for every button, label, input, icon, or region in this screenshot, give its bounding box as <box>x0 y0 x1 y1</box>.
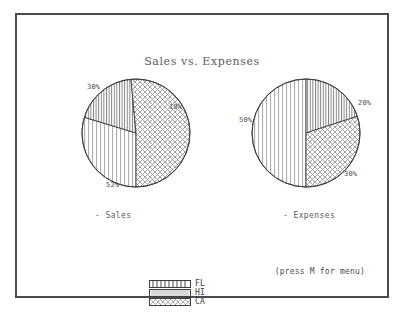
legend-label-hi: HI <box>195 288 205 297</box>
status-hint: (press M for menu) <box>275 267 365 276</box>
application-screen: Sales vs. Expenses <box>0 0 407 321</box>
legend: FL <box>149 279 205 306</box>
legend-swatch-hi <box>149 289 191 297</box>
pie-label-expenses-hi: 50% <box>239 116 252 124</box>
chart-title: Sales vs. Expenses <box>17 55 387 68</box>
caption-expenses: - Expenses <box>283 211 335 220</box>
pie-label-sales-ca: 52% <box>106 181 119 189</box>
pie-label-expenses-ca: 30% <box>344 170 357 178</box>
pie-label-sales-hi: 30% <box>87 83 100 91</box>
pie-chart-sales[interactable] <box>80 77 192 189</box>
legend-swatch-fl <box>149 280 191 288</box>
pie-label-expenses-fl: 20% <box>358 99 371 107</box>
legend-label-fl: FL <box>195 279 205 288</box>
pie-label-sales-fl: 19% <box>169 103 182 111</box>
legend-item-hi[interactable]: HI <box>149 288 205 297</box>
legend-item-fl[interactable]: FL <box>149 279 205 288</box>
pie-expenses-slice-hi <box>252 79 306 187</box>
pie-chart-sales-graphic <box>80 77 192 189</box>
legend-swatch-ca <box>149 298 191 306</box>
graph-frame: Sales vs. Expenses <box>15 13 389 298</box>
legend-label-ca: CA <box>195 297 205 306</box>
pie-sales-slice-ca <box>131 79 190 187</box>
caption-sales: - Sales <box>95 211 132 220</box>
legend-item-ca[interactable]: CA <box>149 297 205 306</box>
